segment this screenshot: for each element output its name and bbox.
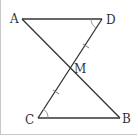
segment-DC [38, 19, 102, 118]
point-label-D: D [106, 13, 116, 27]
point-label-C: C [25, 113, 34, 127]
point-label-A: A [9, 12, 19, 26]
point-label-M: M [74, 62, 86, 76]
geometry-figure: A D M C B [0, 0, 138, 137]
angle-arc-D [91, 19, 96, 28]
point-label-B: B [122, 112, 131, 126]
segment-AB [22, 19, 120, 118]
angle-arc-C [43, 109, 48, 118]
